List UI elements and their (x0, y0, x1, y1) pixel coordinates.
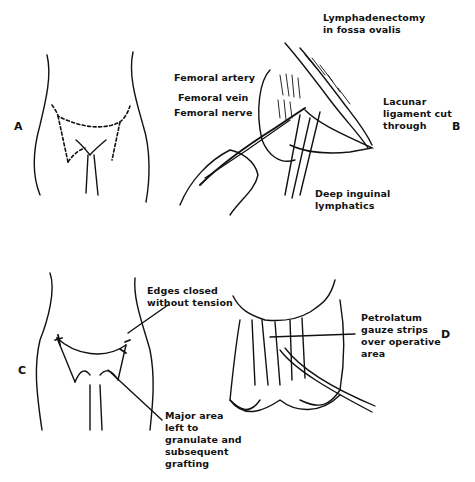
label-femoral-vein: Femoral vein (178, 92, 249, 104)
label-femoral-nerve: Femoral nerve (174, 107, 252, 119)
panel-letter-d: D (441, 328, 450, 341)
label-deep-inguinal-lymphatics: Deep inguinal lymphatics (315, 188, 390, 212)
label-petrolatum-gauze: Petrolatum gauze strips over operative a… (361, 312, 441, 360)
label-lymphadenectomy: Lymphadenectomy in fossa ovalis (323, 12, 425, 36)
label-femoral-artery: Femoral artery (174, 72, 255, 84)
label-lacunar-ligament: Lacunar ligament cut through (383, 96, 452, 132)
label-major-area: Major area left to granulate and subsequ… (165, 410, 242, 470)
panel-d-drawing (230, 280, 375, 412)
panel-letter-a: A (14, 120, 23, 133)
panel-a-drawing (34, 52, 149, 202)
panel-letter-b: B (452, 120, 460, 133)
label-edges-closed: Edges closed without tension (147, 285, 233, 309)
panel-letter-c: C (18, 364, 26, 377)
